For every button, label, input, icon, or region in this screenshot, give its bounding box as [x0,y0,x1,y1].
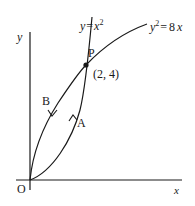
diagram-canvas: y x O y=x2 y2=8x P (2, 4) B A [0,0,195,206]
y-axis-label: y [16,30,23,44]
path-label-b: B [42,94,50,108]
equation-y-equals-x-squared: y=x2 [79,18,103,33]
origin-label: O [17,182,26,196]
point-p-label: P [88,46,95,60]
equation-y-squared-equals-8x: y2=8x [149,19,183,34]
path-label-a: A [77,116,86,130]
arrow-up-icon [69,115,77,121]
x-axis-label: x [173,184,179,196]
intersection-point-p [83,62,88,67]
point-p-coords: (2, 4) [93,67,119,81]
